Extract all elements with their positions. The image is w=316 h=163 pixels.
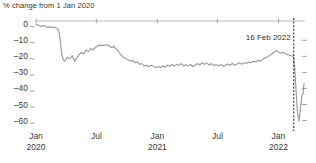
x-axis-tick-label: Jan [272, 131, 286, 141]
x-axis-tick-label: Jan [151, 131, 165, 141]
source-caption [6, 157, 306, 163]
x-axis-tick-label-year: 2020 [27, 142, 46, 152]
x-axis-tick-labels: Jan2020JulJan2021JulJan2022 [27, 131, 289, 152]
y-axis-tick-label: –20 [14, 51, 28, 61]
y-axis-tick-labels: 0–10–20–30–40–50–60 [14, 19, 28, 125]
y-axis-tick-label: 0 [23, 19, 28, 29]
x-axis-tick-label-year: 2022 [269, 142, 288, 152]
x-axis-tick-label-year: 2021 [148, 142, 167, 152]
y-axis-tick-label: –10 [14, 35, 28, 45]
x-axis-tick-label: Jan [29, 131, 43, 141]
chart-container: % change from 1 Jan 2020 0–10–20–30–40–5… [0, 0, 316, 163]
y-axis-tick-label: –60 [14, 116, 28, 126]
y-axis-tick-label: –40 [14, 83, 28, 93]
y-axis-tick-label: –50 [14, 100, 28, 110]
chart-plot-area: 0–10–20–30–40–50–60 Jan2020JulJan2021Jul… [0, 0, 316, 163]
x-axis-tick-label: Jul [212, 131, 223, 141]
y-axis-tick-marks [30, 27, 35, 123]
event-annotation-label: 16 Feb 2022 [246, 33, 291, 42]
right-axis-tick-marks [302, 40, 307, 120]
x-axis-tick-label: Jul [91, 131, 102, 141]
y-axis-tick-label: –30 [14, 67, 28, 77]
